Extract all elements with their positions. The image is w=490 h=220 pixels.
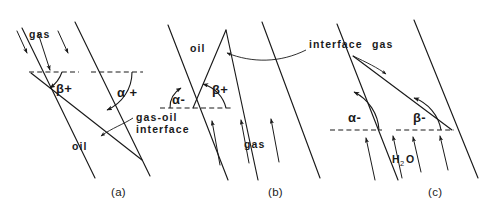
bed-line-a-right: [75, 22, 150, 176]
caption-panel-a: (a): [111, 186, 126, 198]
flow-arrow-a-3: [58, 31, 68, 53]
angle-label-a-alpha: α +: [117, 85, 137, 100]
panel-b: α- β+ oil gas interface (b): [160, 22, 363, 198]
bed-line-c-right: [414, 20, 478, 178]
leader-interface-b: [227, 50, 306, 60]
diagram-svg: gas β+ α + oil gas-oil interface (a): [0, 0, 490, 220]
panel-a: gas β+ α + oil gas-oil interface (a): [17, 22, 190, 198]
flow-arrow-b-3: [271, 119, 279, 162]
label-gas-a: gas: [29, 28, 50, 40]
flow-arrow-c-4: [440, 136, 448, 170]
angle-label-b-alpha: α-: [172, 92, 185, 107]
flow-arrow-c-1: [366, 138, 375, 180]
bed-line-a-left: [22, 28, 95, 178]
angle-label-c-alpha: α-: [348, 110, 361, 125]
figure-container: gas β+ α + oil gas-oil interface (a): [0, 0, 490, 220]
interface-line-b-right: [226, 30, 258, 180]
note-gas-oil-interface-line1: gas-oil: [136, 111, 178, 123]
label-gas-c: gas: [372, 38, 393, 50]
label-water-c: H 2 O: [392, 153, 415, 168]
note-gas-oil-interface-line2: interface: [136, 123, 190, 135]
angle-label-a-beta: β+: [56, 81, 72, 96]
label-gas-b: gas: [244, 138, 265, 150]
caption-panel-c: (c): [428, 186, 442, 198]
panel-a-bed-lines: [22, 22, 150, 178]
label-oil-a: oil: [72, 140, 88, 152]
interface-arrow-c: [353, 56, 386, 74]
label-water-subscript: 2: [400, 159, 404, 168]
caption-panel-b: (b): [268, 186, 283, 198]
angle-label-b-beta: β+: [212, 82, 228, 97]
note-interface-b: interface: [309, 38, 363, 50]
label-water-tail: O: [406, 153, 415, 165]
label-oil-b: oil: [190, 42, 206, 54]
leader-gas-oil-interface-a: [101, 118, 133, 136]
angle-label-c-beta: β-: [413, 110, 426, 125]
